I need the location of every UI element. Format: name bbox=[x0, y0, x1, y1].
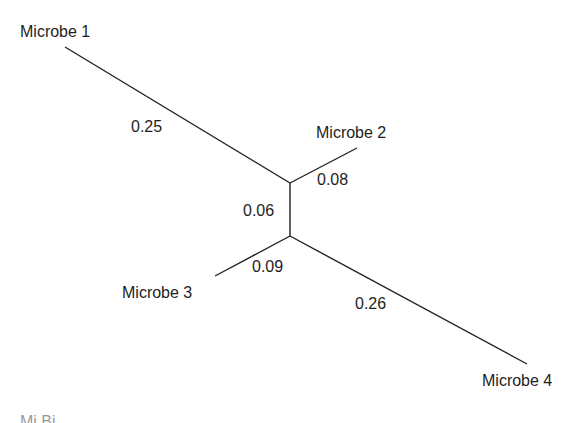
taxon-label-microbe-2: Microbe 2 bbox=[316, 124, 386, 142]
branch-microbe-4 bbox=[290, 236, 527, 364]
cropped-caption: Mi Bi bbox=[20, 413, 56, 423]
branch-length-microbe-1: 0.25 bbox=[131, 118, 162, 136]
branch-length-microbe-2: 0.08 bbox=[317, 171, 348, 189]
branch-length-microbe-4: 0.26 bbox=[355, 295, 386, 313]
taxon-label-microbe-4: Microbe 4 bbox=[482, 372, 552, 390]
branch-length-microbe-3: 0.09 bbox=[252, 258, 283, 276]
branch-microbe-1 bbox=[65, 47, 290, 183]
taxon-label-microbe-3: Microbe 3 bbox=[122, 284, 192, 302]
taxon-label-microbe-1: Microbe 1 bbox=[20, 23, 90, 41]
phylogenetic-tree bbox=[0, 0, 576, 423]
branch-length-internal: 0.06 bbox=[243, 202, 274, 220]
